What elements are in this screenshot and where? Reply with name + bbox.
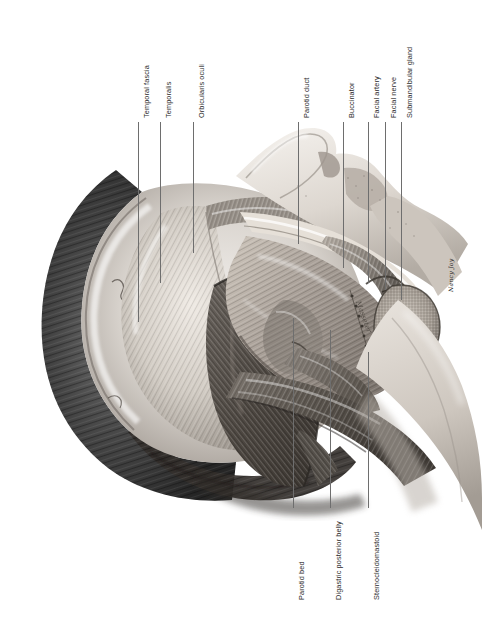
label-orbicularis-oculi: Orbicularis oculi: [197, 64, 206, 118]
label-temporalis: Temporalis: [164, 82, 173, 118]
leader-line-submandibular-gland: [401, 122, 402, 300]
figure-page: Masseter: [0, 0, 483, 627]
label-submandibular-gland: Submandibular gland: [405, 47, 414, 118]
label-facial-nerve: Facial nerve: [389, 77, 398, 118]
leader-line-facial-nerve: [385, 122, 386, 290]
label-parotid-bed: Parotid bed: [297, 561, 306, 600]
leader-line-orbicularis-oculi: [193, 122, 194, 253]
leader-line-temporalis: [160, 122, 161, 283]
label-facial-artery: Facial artery: [372, 76, 381, 118]
label-buccinator: Buccinator: [347, 82, 356, 118]
leader-line-sternocleidomastoid: [368, 352, 369, 508]
label-digastric-posterior-belly: Digastric posterior belly: [334, 521, 343, 600]
leader-line-facial-artery: [368, 122, 369, 283]
artist-signature: Nancy Joy: [447, 259, 454, 292]
leader-line-digastric: [330, 330, 331, 508]
leader-line-parotid-duct: [298, 122, 299, 244]
leader-line-parotid-bed: [293, 318, 294, 508]
label-sternocleidomastoid: Sternocleidomastoid: [372, 532, 381, 600]
label-parotid-duct: Parotid duct: [302, 78, 311, 118]
leader-line-buccinator: [343, 122, 344, 268]
leader-line-temporal-fascia: [138, 122, 139, 322]
label-temporal-fascia: Temporal fascia: [142, 65, 151, 118]
